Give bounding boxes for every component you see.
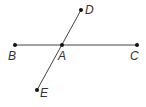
label-c: C <box>130 49 139 63</box>
point-c <box>135 43 139 47</box>
point-d <box>79 8 83 12</box>
point-e <box>35 88 39 92</box>
geometry-diagram: B A C D E <box>0 0 146 107</box>
point-a <box>60 43 64 47</box>
label-d: D <box>85 3 94 17</box>
label-a: A <box>57 49 66 63</box>
label-b: B <box>8 49 16 63</box>
label-e: E <box>40 86 49 100</box>
point-b <box>13 43 17 47</box>
